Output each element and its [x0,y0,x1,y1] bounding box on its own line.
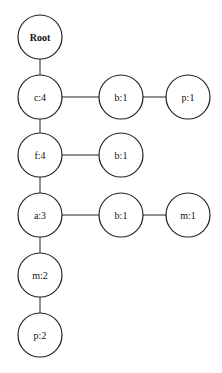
node-label: Root [30,32,51,43]
tree-node-b1c: b:1 [99,193,143,237]
tree-node-b1b: b:1 [99,133,143,177]
tree-node-c4: c:4 [18,75,62,119]
node-label: p:1 [182,92,195,103]
tree-node-p2: p:2 [18,313,62,357]
node-label: b:1 [115,150,128,161]
tree-node-m1: m:1 [166,193,210,237]
node-label: m:1 [180,210,196,221]
node-label: p:2 [34,330,47,341]
node-label: m:2 [32,270,48,281]
node-label: b:1 [115,210,128,221]
tree-node-root: Root [18,15,62,59]
tree-node-b1a: b:1 [99,75,143,119]
node-label: c:4 [34,92,46,103]
node-label: a:3 [34,210,46,221]
node-label: b:1 [115,92,128,103]
tree-node-p1: p:1 [166,75,210,119]
tree-node-m2: m:2 [18,253,62,297]
tree-node-a3: a:3 [18,193,62,237]
node-label: f:4 [34,150,45,161]
nodes-layer: Rootc:4b:1p:1f:4b:1a:3b:1m:1m:2p:2 [18,15,210,357]
tree-diagram: Rootc:4b:1p:1f:4b:1a:3b:1m:1m:2p:2 [0,0,222,373]
tree-node-f4: f:4 [18,133,62,177]
